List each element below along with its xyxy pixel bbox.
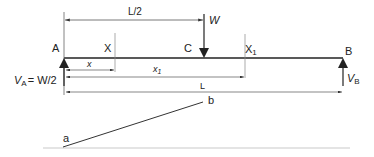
- moment-line: [63, 102, 203, 147]
- end-b-label: B: [345, 45, 352, 57]
- reaction-a-label: VA= W/2: [14, 74, 57, 88]
- x-dimension-label: x: [86, 59, 92, 69]
- reaction-a-arrow-icon: [59, 58, 69, 68]
- end-a-label: A: [52, 42, 60, 54]
- reaction-b-label: VB: [347, 72, 360, 86]
- half-span-label: L/2: [128, 6, 142, 17]
- load-arrow-icon: [199, 48, 209, 58]
- x1-dimension-label: x1: [152, 64, 162, 75]
- beam-diagram: L/2 W A X C X1 B VA= W/2 VB x x1 L a b: [0, 0, 374, 157]
- span-label: L: [200, 81, 205, 91]
- section-x1-label: X1: [245, 43, 257, 57]
- point-c-label: C: [184, 42, 192, 54]
- moment-end-label: b: [208, 94, 214, 106]
- reaction-b-arrow-icon: [338, 58, 348, 68]
- section-x-label: X: [104, 42, 112, 54]
- moment-start-label: a: [63, 132, 70, 144]
- load-label: W: [209, 14, 221, 26]
